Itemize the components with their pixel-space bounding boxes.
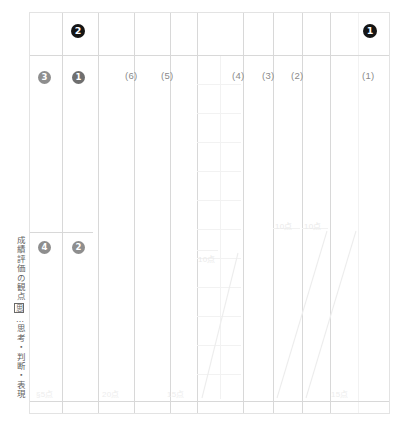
column-header-3: (3) [262, 70, 275, 81]
badge-4-mid[interactable]: 4 [38, 241, 51, 254]
gridline-h-sub-5 [197, 200, 241, 201]
caption-head: 成績評価の観点 [15, 236, 24, 302]
gridline-h-sub-10 [197, 345, 241, 346]
gridline-v-2 [98, 13, 99, 413]
badge-2-mid[interactable]: 2 [72, 241, 85, 254]
point-label-bottom-1: §5点 [36, 388, 54, 399]
gridline-h-bottom [30, 401, 389, 402]
score-table-frame: 2 1 3 1 4 2 (6) (5) (4) (3) (2) (1) 10点 … [29, 12, 390, 414]
point-label-bottom-4: 15点 [331, 388, 349, 399]
gridline-h-sub-9 [197, 316, 241, 317]
gridline-v-sub-4 [220, 55, 221, 399]
gridline-h-10pt-box [197, 250, 218, 251]
point-label-bottom-3: 15点 [167, 388, 185, 399]
badge-1-header[interactable]: 1 [72, 71, 85, 84]
gridline-h-mid-left [30, 232, 93, 233]
gridline-h-sub-4 [197, 171, 241, 172]
badge-1-top[interactable]: 1 [363, 24, 377, 38]
gridline-h-sub-6 [197, 229, 241, 230]
gridline-v-5 [197, 13, 198, 413]
gridline-h-header [30, 55, 389, 56]
column-header-4: (4) [232, 70, 245, 81]
column-header-1: (1) [362, 70, 375, 81]
column-header-6: (6) [125, 70, 138, 81]
gridline-v-10 [358, 13, 359, 413]
column-header-5: (5) [161, 70, 174, 81]
point-label-inline-4: 10点 [198, 253, 216, 264]
badge-2-top[interactable]: 2 [71, 24, 85, 38]
caption-boxed-symbol: 思 [14, 303, 25, 313]
gridline-v-9 [330, 13, 331, 413]
badge-3-header[interactable]: 3 [38, 71, 51, 84]
gridline-h-sub-1 [197, 84, 241, 85]
gridline-h-sub-11 [197, 374, 241, 375]
point-label-inline-2: 10点 [304, 220, 322, 231]
vertical-caption: 成績評価の観点思…思考・判断・表現 [2, 236, 24, 422]
gridline-v-1 [62, 13, 63, 413]
diagonal-mark-2 [306, 231, 356, 398]
point-label-bottom-2: 20点 [102, 388, 120, 399]
gridline-h-sub-8 [197, 287, 241, 288]
point-label-inline-3: 10点 [275, 220, 293, 231]
column-header-2: (2) [291, 70, 304, 81]
gridline-h-sub-2 [197, 113, 241, 114]
gridline-h-sub-3 [197, 142, 241, 143]
caption-tail: …思考・判断・表現 [15, 314, 24, 400]
answer-sheet: 成績評価の観点思…思考・判断・表現 [0, 0, 398, 426]
